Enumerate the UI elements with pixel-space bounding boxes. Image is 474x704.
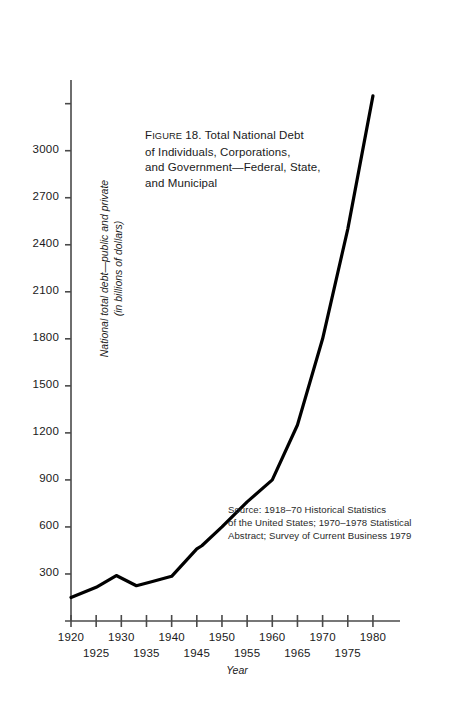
y-tick-label: 1800 (13, 331, 59, 343)
x-tick-label: 1955 (223, 647, 271, 659)
y-tick-label: 1500 (13, 378, 59, 390)
y-tick-label: 2700 (13, 190, 59, 202)
x-tick-label: 1960 (248, 631, 296, 643)
y-tick-label: 300 (13, 566, 59, 578)
figure-container: 3006009001200150018002100240027003000 19… (0, 0, 474, 704)
x-tick-label: 1945 (173, 647, 221, 659)
chart-plot-area (0, 0, 474, 704)
y-tick-label: 1200 (13, 425, 59, 437)
x-tick-label: 1970 (299, 631, 347, 643)
x-tick-label: 1940 (148, 631, 196, 643)
x-axis-title: Year (0, 664, 474, 676)
x-tick-label: 1935 (122, 647, 170, 659)
x-tick-label: 1975 (324, 647, 372, 659)
x-tick-label: 1980 (349, 631, 397, 643)
source-note: Source: 1918–70 Historical Statistics of… (228, 503, 443, 542)
x-tick-label: 1965 (273, 647, 321, 659)
y-axis-title: National total debt—public and private (… (98, 154, 125, 384)
x-tick-label: 1920 (47, 631, 95, 643)
figure-word: FIGURE (145, 129, 182, 141)
x-tick-label: 1930 (97, 631, 145, 643)
y-tick-label: 600 (13, 519, 59, 531)
x-tick-label: 1950 (198, 631, 246, 643)
y-tick-label: 2400 (13, 237, 59, 249)
chart-title: FIGURE 18. Total National Debt of Indivi… (145, 128, 375, 191)
y-tick-label: 900 (13, 472, 59, 484)
y-tick-label: 3000 (13, 143, 59, 155)
x-tick-label: 1925 (72, 647, 120, 659)
y-tick-label: 2100 (13, 284, 59, 296)
